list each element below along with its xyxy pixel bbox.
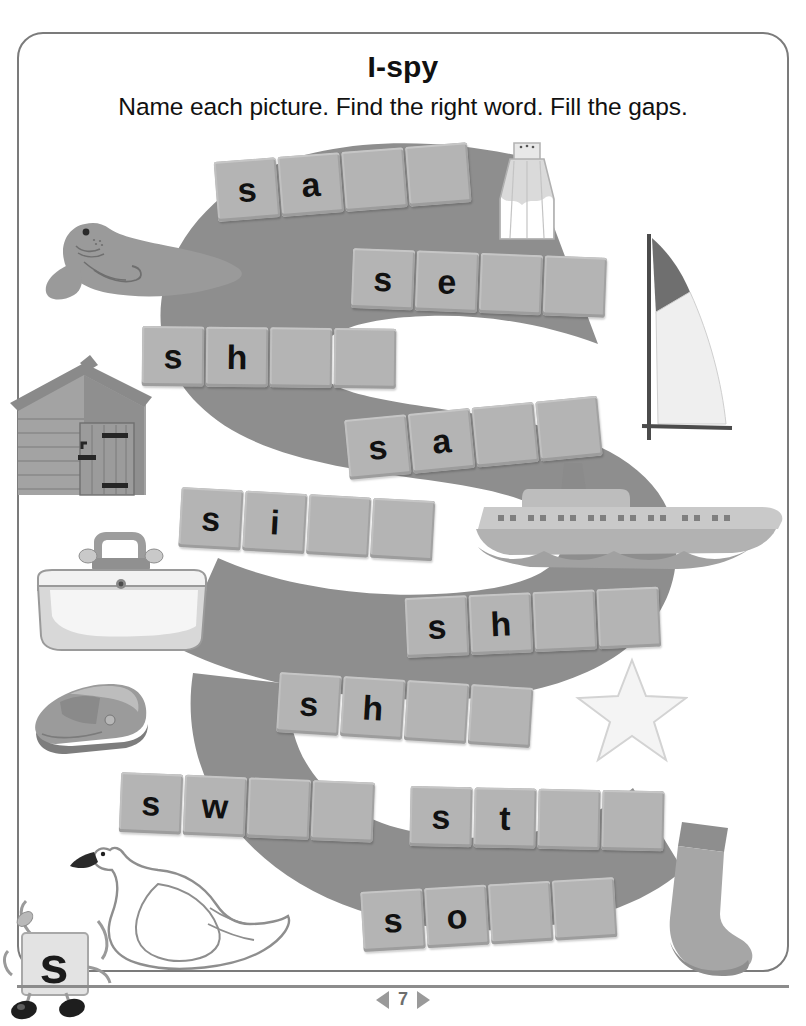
word-row-ship[interactable]: s h <box>405 586 663 658</box>
picture-star <box>572 652 688 764</box>
footer: 7 <box>0 989 806 1010</box>
tile-sock-3[interactable] <box>552 877 617 941</box>
footer-divider <box>17 985 789 988</box>
tile-shed-3[interactable] <box>334 328 397 389</box>
tile-salt-2[interactable] <box>341 147 408 212</box>
tile-shoe-3[interactable] <box>468 684 534 748</box>
tile-swan-0[interactable]: s <box>119 772 183 835</box>
tile-ship-1[interactable]: h <box>469 592 534 655</box>
tile-seal-1[interactable]: e <box>415 250 479 312</box>
picture-sock <box>650 818 762 978</box>
tile-salt-3[interactable] <box>405 142 472 207</box>
picture-seal <box>38 196 248 316</box>
tile-salt-0[interactable]: s <box>214 157 281 222</box>
word-row-salt[interactable]: s a <box>214 142 474 222</box>
worksheet-page: I-spy Name each picture. Find the right … <box>0 0 806 1026</box>
page-title: I-spy <box>0 50 806 84</box>
next-page-arrow-icon[interactable] <box>417 991 430 1009</box>
tile-sail-2[interactable] <box>472 402 539 468</box>
word-row-sock[interactable]: s o <box>360 877 619 952</box>
tile-star-1[interactable]: t <box>473 787 536 848</box>
tile-sock-0[interactable]: s <box>360 888 425 952</box>
picture-shoe <box>26 672 166 762</box>
tile-sock-1[interactable]: o <box>424 885 489 949</box>
tile-swan-2[interactable] <box>247 777 311 840</box>
tile-seal-3[interactable] <box>543 255 607 317</box>
tile-sink-0[interactable]: s <box>178 487 243 550</box>
word-row-shed[interactable]: s h <box>142 326 399 389</box>
tile-shed-1[interactable]: h <box>206 327 269 388</box>
picture-salt-shaker <box>488 135 566 251</box>
tile-seal-2[interactable] <box>479 253 543 315</box>
word-row-shoe[interactable]: s h <box>276 672 535 748</box>
prev-page-arrow-icon[interactable] <box>376 991 389 1009</box>
tile-sail-1[interactable]: a <box>408 408 475 474</box>
picture-sail <box>616 228 741 456</box>
tile-ship-0[interactable]: s <box>405 595 470 658</box>
tile-ship-2[interactable] <box>533 589 598 652</box>
page-instructions: Name each picture. Find the right word. … <box>0 93 806 121</box>
tile-star-2[interactable] <box>537 789 600 850</box>
tile-star-0[interactable]: s <box>409 786 472 847</box>
tile-ship-3[interactable] <box>596 587 661 650</box>
word-row-star[interactable]: s t <box>409 786 666 851</box>
tile-sink-3[interactable] <box>370 498 435 561</box>
tile-sock-2[interactable] <box>488 881 553 945</box>
tile-sink-1[interactable]: i <box>242 491 307 554</box>
word-row-sail[interactable]: s a <box>344 396 605 480</box>
page-number: 7 <box>398 989 408 1010</box>
tile-shoe-1[interactable]: h <box>340 676 406 740</box>
picture-ship <box>470 455 790 575</box>
tile-swan-3[interactable] <box>311 780 375 843</box>
tile-shoe-2[interactable] <box>404 680 470 744</box>
tile-shed-0[interactable]: s <box>142 326 205 387</box>
tile-sink-2[interactable] <box>306 494 371 557</box>
tile-seal-0[interactable]: s <box>351 248 415 310</box>
tile-star-3[interactable] <box>601 790 664 851</box>
tile-sail-3[interactable] <box>535 396 602 462</box>
word-row-swan[interactable]: s w <box>119 772 377 843</box>
tile-shoe-0[interactable]: s <box>276 672 342 736</box>
tile-salt-1[interactable]: a <box>277 152 344 217</box>
tile-shed-2[interactable] <box>270 327 333 388</box>
tile-sail-0[interactable]: s <box>344 414 411 480</box>
tile-swan-1[interactable]: w <box>183 775 247 838</box>
word-row-sink[interactable]: s i <box>178 487 437 561</box>
word-row-seal[interactable]: s e <box>351 248 609 318</box>
picture-shed <box>6 345 156 510</box>
